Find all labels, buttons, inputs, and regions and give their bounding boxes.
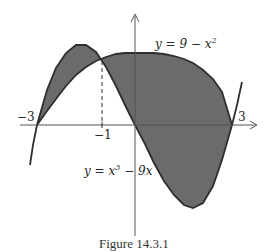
tick-label-3: 3 — [238, 110, 246, 124]
tick-label-neg1: −1 — [94, 128, 112, 142]
parabola-label: y = 9 − x2 — [155, 36, 217, 51]
figure-plot — [0, 0, 270, 252]
parabola-label-base: y = 9 − x — [155, 37, 212, 51]
cubic-label: y = x3 − 9x — [84, 163, 152, 178]
figure-caption: Figure 14.3.1 — [99, 236, 169, 252]
parabola-label-exp: 2 — [212, 36, 217, 45]
tick-label-neg3: −3 — [17, 110, 35, 124]
cubic-label-base: y = x — [84, 164, 115, 178]
cubic-label-rest: − 9x — [120, 164, 152, 178]
